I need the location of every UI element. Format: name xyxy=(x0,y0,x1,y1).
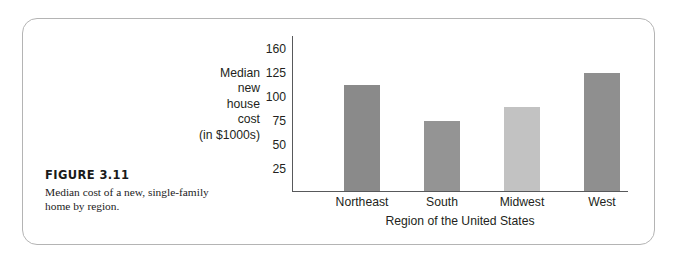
y-axis-tick-label: 75 xyxy=(252,114,286,128)
x-axis-label-west: West xyxy=(554,195,650,209)
y-axis-title-line: cost xyxy=(178,112,260,127)
x-axis-line xyxy=(292,191,628,192)
y-axis-title-line: (in $1000s) xyxy=(178,128,260,143)
y-axis-tick-label: 50 xyxy=(252,138,286,152)
y-axis-title: Mediannewhousecost(in $1000s) xyxy=(178,66,260,143)
bar-midwest xyxy=(504,107,540,191)
bar-chart: Mediannewhousecost(in $1000s) 1601251007… xyxy=(0,0,681,260)
y-axis-title-line: house xyxy=(178,97,260,112)
bar-west xyxy=(584,73,620,191)
y-axis-tick-label: 160 xyxy=(252,42,286,56)
y-axis-tick-label: 125 xyxy=(252,66,286,80)
y-axis-title-line: new xyxy=(178,81,260,96)
y-axis-tick-label: 100 xyxy=(252,90,286,104)
bar-northeast xyxy=(344,85,380,191)
bar-south xyxy=(424,121,460,191)
y-axis-title-line: Median xyxy=(178,66,260,81)
y-axis-tick-label: 25 xyxy=(252,162,286,176)
y-axis-line xyxy=(292,36,293,192)
x-axis-title: Region of the United States xyxy=(292,214,628,228)
